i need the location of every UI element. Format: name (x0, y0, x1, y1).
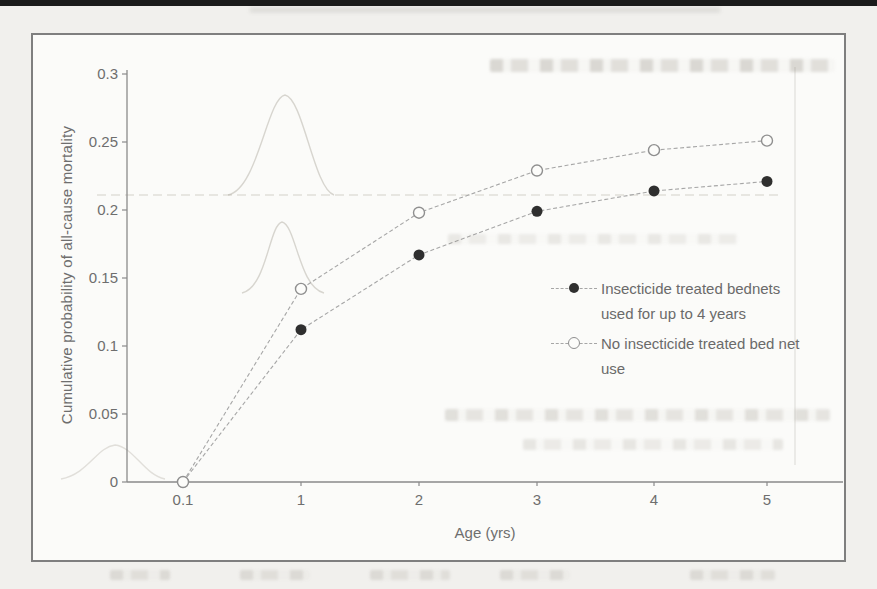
svg-text:0.15: 0.15 (89, 269, 118, 286)
chart-legend: Insecticide treated bednets used for up … (551, 276, 826, 386)
bleed-through-text-smudge (448, 234, 738, 244)
svg-text:0.05: 0.05 (89, 405, 118, 422)
legend-item-treated-bednets: Insecticide treated bednets used for up … (551, 276, 826, 326)
bleed-through-text-smudge (490, 59, 835, 72)
svg-text:0.2: 0.2 (97, 201, 118, 218)
legend-label-line: use (601, 356, 799, 381)
bleed-through-text-smudge (370, 570, 450, 580)
legend-key-treated (551, 276, 597, 301)
legend-label-line: No insecticide treated bed net (601, 331, 799, 356)
bleed-through-bell-curve (228, 95, 334, 195)
x-axis-title: Age (yrs) (127, 524, 843, 541)
svg-text:0.3: 0.3 (97, 65, 118, 82)
svg-text:4: 4 (650, 491, 658, 508)
svg-text:2: 2 (415, 491, 423, 508)
svg-text:1: 1 (297, 491, 305, 508)
filled-circle-icon (569, 283, 579, 293)
bleed-through-bell-curve (242, 222, 324, 293)
svg-text:0.1: 0.1 (173, 491, 194, 508)
scan-artifact-smudge (250, 8, 720, 12)
svg-text:0.25: 0.25 (89, 133, 118, 150)
bleed-through-text-smudge (445, 409, 830, 421)
legend-label-treated: Insecticide treated bednets used for up … (601, 276, 780, 326)
bleed-through-text-smudge (500, 570, 570, 580)
legend-label-untreated: No insecticide treated bed net use (601, 331, 799, 381)
open-circle-icon (568, 337, 580, 349)
svg-text:3: 3 (533, 491, 541, 508)
svg-text:0: 0 (110, 473, 118, 490)
bleed-through-text-smudge (240, 570, 310, 580)
bleed-through-text-smudge (690, 570, 775, 580)
chart-figure: 00.050.10.150.20.250.30.112345 Cumulativ… (31, 33, 846, 562)
legend-item-no-bednets: No insecticide treated bed net use (551, 331, 826, 381)
legend-label-line: Insecticide treated bednets (601, 276, 780, 301)
svg-text:5: 5 (763, 491, 771, 508)
legend-key-untreated (551, 331, 597, 356)
page-top-rule (0, 0, 877, 6)
legend-label-line: used for up to 4 years (601, 301, 780, 326)
bleed-through-text-smudge (110, 570, 170, 580)
bleed-through-text-smudge (523, 439, 783, 450)
y-axis-title: Cumulative probability of all-cause mort… (58, 126, 75, 424)
svg-text:0.1: 0.1 (97, 337, 118, 354)
